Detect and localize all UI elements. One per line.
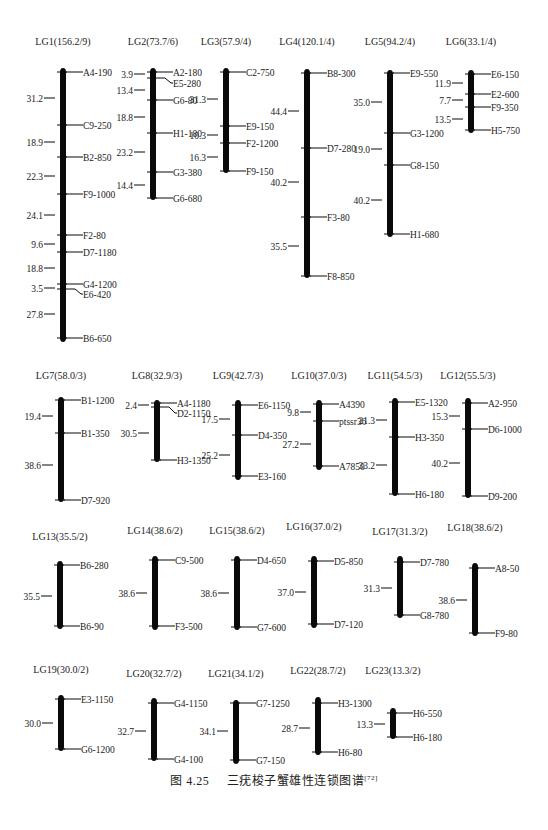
distance-label: 9.6: [31, 240, 43, 250]
distance-label: 13.4: [116, 86, 133, 96]
linkage-group-title: LG23(13.3/2): [365, 665, 420, 677]
linkage-group-lg1: LG1(156.2/9)A4-190C9-250B2-850F9-1000F2-…: [26, 36, 117, 344]
distance-label: 16.3: [189, 153, 206, 163]
chromosome-bar: [472, 563, 478, 636]
linkage-group-title: LG9(42.7/3): [213, 370, 263, 382]
distance-label: 15.3: [431, 412, 448, 422]
distance-label: 35.0: [353, 98, 370, 108]
distance-label: 3.5: [31, 284, 43, 294]
linkage-group-lg16: LG16(37.0/2)D5-850D7-12037.0: [277, 521, 363, 630]
distance-label: 28.7: [281, 724, 298, 734]
linkage-group-title: LG6(33.1/4): [446, 36, 496, 48]
distance-label: 33.2: [358, 461, 375, 471]
marker-label: E3-160: [258, 472, 286, 482]
chromosome-bar: [397, 556, 403, 618]
distance-label: 40.2: [353, 196, 370, 206]
chromosome-bar: [468, 70, 474, 133]
distance-label: 30.0: [24, 719, 41, 729]
marker-label: G6-680: [173, 194, 202, 204]
linkage-group-lg18: LG18(38.6/2)A8-50F9-8038.6: [438, 522, 519, 639]
marker-label: G3-380: [173, 168, 202, 178]
marker-label: E6-150: [491, 70, 519, 80]
linkage-group-lg3: LG3(57.9/4)C2-750E9-150F2-1200F9-15031.3…: [189, 36, 278, 177]
chromosome-bar: [60, 68, 66, 342]
marker-label: B2-850: [83, 153, 112, 163]
linkage-group-title: LG17(31.3/2): [372, 526, 427, 538]
marker-label: B1-1200: [81, 396, 115, 406]
linkage-map-figure: LG1(156.2/9)A4-190C9-250B2-850F9-1000F2-…: [0, 0, 548, 830]
marker-label: E9-550: [410, 69, 438, 79]
linkage-group-title: LG10(37.0/3): [291, 370, 346, 382]
linkage-group-title: LG5(94.2/4): [365, 36, 415, 48]
marker-leader-line: [157, 78, 173, 83]
distance-label: 27.8: [26, 310, 43, 320]
linkage-group-title: LG12(55.5/3): [440, 370, 495, 382]
chromosome-bar: [58, 397, 64, 502]
linkage-group-lg21: LG21(34.1/2)G7-1250G7-15034.1: [199, 668, 290, 766]
linkage-group-title: LG13(35.5/2): [32, 531, 87, 543]
chromosome-bar: [304, 69, 310, 278]
linkage-group-title: LG19(30.0/2): [33, 664, 88, 676]
linkage-group-lg7: LG7(58.0/3)B1-1200B1-350D7-92019.438.6: [24, 370, 114, 506]
figure-reference: [72]: [364, 774, 378, 782]
marker-label: D6-1000: [488, 425, 522, 435]
marker-label: F9-80: [495, 629, 518, 639]
marker-label: G4-1150: [174, 699, 208, 709]
distance-label: 40.2: [270, 178, 287, 188]
linkage-group-title: LG14(38.6/2): [127, 525, 182, 537]
linkage-group-title: LG21(34.1/2): [208, 668, 263, 680]
linkage-group-lg5: LG5(94.2/4)E9-550G3-1200G8-150H1-68035.0…: [353, 36, 444, 240]
chromosome-bar: [233, 700, 239, 764]
chromosome-bar: [316, 400, 322, 470]
marker-label: E9-150: [246, 122, 274, 132]
distance-label: 40.2: [431, 459, 448, 469]
distance-label: 22.3: [26, 172, 43, 182]
marker-label: H5-750: [491, 126, 520, 136]
distance-label: 17.5: [201, 415, 218, 425]
distance-label: 35.5: [270, 242, 287, 252]
distance-label: 32.7: [117, 727, 134, 737]
linkage-group-lg9: LG9(42.7/3)E6-1150D4-350E3-16017.525.2: [201, 370, 290, 482]
distance-label: 38.6: [200, 589, 217, 599]
linkage-group-lg20: LG20(32.7/2)G4-1150G4-10032.7: [117, 668, 207, 765]
marker-label: B8-300: [327, 69, 356, 79]
distance-label: 10.3: [189, 131, 206, 141]
distance-label: 21.3: [358, 416, 375, 426]
linkage-group-lg12: LG12(55.5/3)A2-950D6-1000D9-20015.340.2: [431, 370, 522, 502]
linkage-group-lg10: LG10(37.0/3)A4390ptssr36A78509.827.2: [282, 370, 366, 472]
figure-number: 图 4.25: [170, 774, 209, 788]
marker-label: B6-280: [80, 561, 109, 571]
linkage-group-title: LG2(73.7/6): [128, 36, 178, 48]
distance-label: 13.3: [356, 720, 373, 730]
linkage-group-title: LG20(32.7/2): [126, 668, 181, 680]
distance-label: 38.6: [24, 461, 41, 471]
marker-label: E5-1320: [415, 398, 448, 408]
distance-label: 7.7: [439, 96, 451, 106]
linkage-group-lg15: LG15(38.6/2)D4-650G7-60038.6: [200, 525, 286, 633]
marker-label: D5-850: [334, 557, 363, 567]
marker-label: E2-600: [491, 90, 519, 100]
linkage-group-lg13: LG13(35.5/2)B6-280B6-9035.5: [23, 531, 108, 632]
marker-label: F9-350: [491, 103, 519, 113]
figure-title: 三疣梭子蟹雄性连锁图谱: [227, 774, 365, 788]
linkage-group-lg11: LG11(54.5/3)E5-1320H3-350H6-18021.333.2: [358, 370, 448, 500]
chromosome-bar: [235, 400, 241, 480]
marker-label: C9-250: [83, 121, 112, 131]
distance-label: 38.6: [438, 596, 455, 606]
linkage-group-title: LG7(58.0/3): [36, 370, 86, 382]
marker-label: G8-150: [410, 161, 439, 171]
chromosome-bar: [154, 400, 160, 462]
marker-label: H1-680: [410, 230, 439, 240]
chromosome-bar: [465, 398, 471, 498]
linkage-group-lg2: LG2(73.7/6)A2-180E5-280G6-80H1-180G3-380…: [116, 36, 202, 204]
marker-label: H6-180: [413, 733, 442, 743]
distance-label: 34.1: [199, 727, 216, 737]
marker-label: H6-180: [415, 490, 444, 500]
marker-label: F2-80: [83, 231, 106, 241]
marker-label: D7-920: [81, 496, 110, 506]
linkage-group-title: LG11(54.5/3): [368, 370, 423, 382]
chromosome-bar: [151, 698, 157, 761]
marker-label: F8-850: [327, 272, 355, 282]
linkage-group-lg17: LG17(31.3/2)D7-780G8-78031.3: [363, 526, 449, 621]
chromosome-bar: [315, 697, 321, 755]
